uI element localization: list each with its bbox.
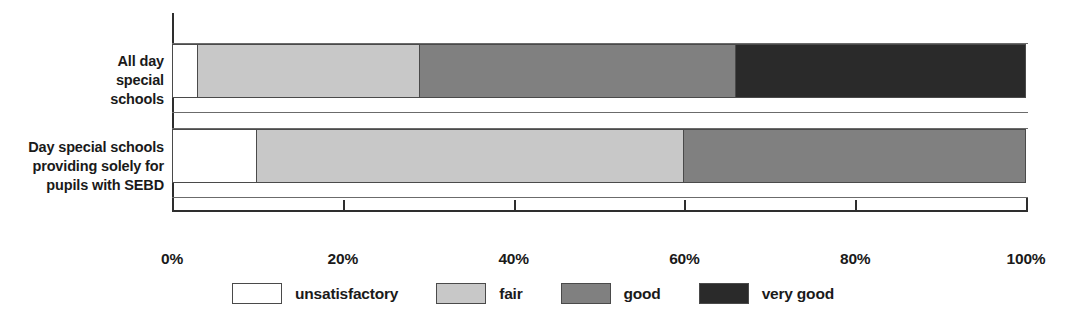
category-label-line: pupils with SEBD <box>8 176 164 195</box>
category-label-text: All dayspecialschools <box>8 52 164 109</box>
x-axis-tick-label: 0% <box>161 250 183 268</box>
x-axis-tick <box>855 200 857 211</box>
legend-label: unsatisfactory <box>295 285 398 303</box>
category-label-line: providing solely for <box>8 157 164 176</box>
category-label-line: All day <box>8 52 164 71</box>
bar-slot-guide <box>172 197 1028 198</box>
bar-segment-good <box>684 129 1026 183</box>
chart-legend: unsatisfactoryfairgoodvery good <box>0 283 1066 304</box>
legend-swatch-fair <box>436 283 486 304</box>
x-axis-tick-label: 40% <box>498 250 528 268</box>
category-label-text: Day special schoolsproviding solely forp… <box>8 138 164 195</box>
bar-segment-unsatisfactory <box>172 129 257 183</box>
x-axis-tick-label: 20% <box>328 250 358 268</box>
bar-slot-guide <box>172 112 1028 113</box>
bar-row <box>172 129 1026 183</box>
category-label-line: Day special schools <box>8 138 164 157</box>
legend-swatch-unsatisfactory <box>232 283 282 304</box>
x-axis-line <box>172 210 1028 212</box>
legend-item[interactable]: good <box>561 283 661 304</box>
bar-segment-fair <box>257 129 684 183</box>
x-axis-end-cap <box>1026 198 1028 212</box>
category-label-line: schools <box>8 90 164 109</box>
bar-segment-good <box>420 44 736 98</box>
bar-segment-very-good <box>736 44 1026 98</box>
x-axis-tick-label: 60% <box>669 250 699 268</box>
legend-swatch-very-good <box>699 283 749 304</box>
x-axis-tick-label: 100% <box>1007 250 1046 268</box>
bar-segment-fair <box>198 44 420 98</box>
legend-item[interactable]: fair <box>436 283 522 304</box>
legend-label: good <box>624 285 661 303</box>
bar-segment-unsatisfactory <box>172 44 198 98</box>
category-label-line: special <box>8 71 164 90</box>
legend-swatch-good <box>561 283 611 304</box>
x-axis-tick <box>684 200 686 211</box>
x-axis-tick <box>514 200 516 211</box>
x-axis-tick-label: 80% <box>840 250 870 268</box>
legend-label: very good <box>762 285 834 303</box>
bar-row <box>172 44 1026 98</box>
legend-label: fair <box>499 285 522 303</box>
legend-item[interactable]: unsatisfactory <box>232 283 398 304</box>
legend-item[interactable]: very good <box>699 283 834 304</box>
x-axis-tick <box>343 200 345 211</box>
stacked-bar-chart: 0%20%40%60%80%100% All dayspecialschools… <box>0 0 1066 328</box>
